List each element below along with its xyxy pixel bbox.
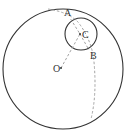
point-o: [60, 67, 62, 69]
label-b: B: [90, 50, 97, 61]
point-c: [79, 33, 81, 35]
big-circle: [3, 9, 123, 129]
label-c: C: [82, 29, 89, 40]
geometry-diagram: A C B O: [0, 0, 126, 139]
dashed-line-oc: [61, 18, 80, 68]
label-a: A: [64, 7, 72, 18]
label-o: O: [53, 63, 60, 74]
